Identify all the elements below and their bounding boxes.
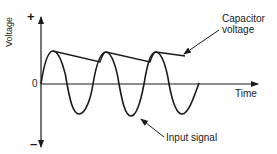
input-leader-arrow: [141, 119, 164, 137]
y-axis-label: Voltage: [4, 17, 15, 47]
capacitor-voltage-line: [53, 51, 185, 62]
positive-sign: +: [27, 11, 35, 22]
capacitor-label-line2: voltage: [222, 24, 265, 35]
input-signal-label: Input signal: [166, 132, 217, 143]
capacitor-leader-arrow: [184, 30, 219, 54]
capacitor-charging-diagram: Voltage + – 0 Time Capacitor voltage Inp…: [0, 0, 277, 154]
x-axis-label: Time: [235, 88, 257, 99]
capacitor-label-line1: Capacitor: [222, 13, 265, 24]
negative-sign: –: [30, 138, 37, 149]
zero-label: 0: [32, 78, 38, 89]
capacitor-voltage-label: Capacitor voltage: [222, 13, 265, 35]
